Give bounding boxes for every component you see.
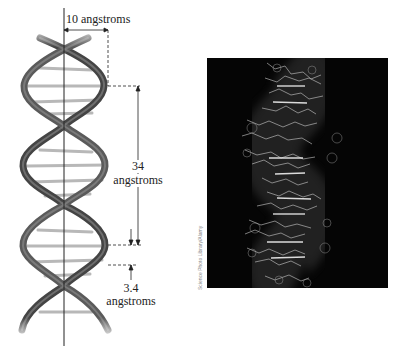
rise-unit-label: angstroms — [101, 295, 161, 308]
pitch-unit-label: angstroms — [108, 174, 168, 187]
dna-helix-diagram — [0, 0, 200, 348]
photo-credit: Science Photo Library/Alamy — [197, 226, 203, 290]
width-label: 10 angstroms — [66, 13, 136, 26]
pitch-value-label: 34 — [113, 160, 163, 173]
dna-molecular-model-photo — [207, 58, 388, 288]
rise-dimension — [108, 229, 136, 280]
